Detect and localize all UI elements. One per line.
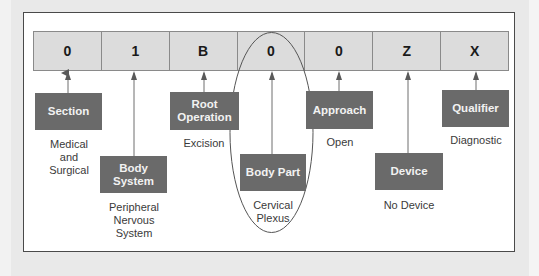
device-label-box: Device bbox=[375, 153, 443, 190]
body-part-label-box: Body Part bbox=[240, 154, 306, 191]
body-system-value: Peripheral Nervous System bbox=[89, 201, 179, 240]
qualifier-label: Qualifier bbox=[452, 102, 499, 115]
section-label-box: Section bbox=[35, 93, 102, 130]
body-system-label-line2: System bbox=[113, 175, 154, 188]
root-operation-label-line1: Root bbox=[191, 98, 217, 111]
section-label: Section bbox=[48, 105, 90, 118]
body-system-label-box: Body System bbox=[100, 156, 167, 193]
qualifier-label-box: Qualifier bbox=[442, 90, 509, 127]
approach-label-box: Approach bbox=[306, 91, 373, 129]
root-operation-label-box: Root Operation bbox=[170, 92, 239, 130]
approach-value: Open bbox=[295, 136, 385, 149]
body-system-label-line1: Body bbox=[119, 162, 148, 175]
root-operation-label-line2: Operation bbox=[177, 111, 231, 124]
body-part-value: Cervical Plexus bbox=[228, 199, 318, 225]
qualifier-value: Diagnostic bbox=[431, 134, 521, 147]
device-label: Device bbox=[390, 165, 427, 178]
device-value: No Device bbox=[364, 199, 454, 212]
arrowheads bbox=[65, 71, 479, 80]
root-operation-value: Excision bbox=[159, 137, 249, 150]
approach-label: Approach bbox=[313, 104, 367, 117]
body-part-label: Body Part bbox=[246, 166, 300, 179]
